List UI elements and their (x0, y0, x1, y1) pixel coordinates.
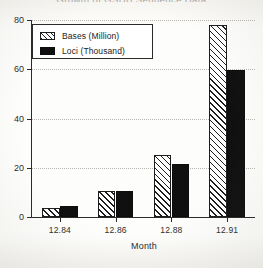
bar (60, 206, 78, 217)
chart-legend: Bases (Million) Loci (Thousand) (32, 24, 153, 59)
bar (154, 155, 172, 217)
y-axis-label: 80 (14, 15, 24, 25)
y-axis-tick (27, 20, 32, 21)
x-axis-label: 12.86 (104, 225, 126, 235)
chart-title: Growth of GSDB Sequence Data (0, 0, 263, 2)
x-axis-title: Month (32, 241, 256, 251)
legend-label-bases: Bases (Million) (62, 31, 119, 41)
legend-swatch-solid (40, 47, 55, 55)
y-axis-tick (27, 119, 32, 120)
legend-item-bases: Bases (Million) (40, 29, 152, 42)
bar (227, 70, 245, 217)
y-axis-label: 0 (19, 212, 24, 222)
bar (98, 191, 116, 217)
y-axis-tick (27, 168, 32, 169)
x-axis-tick (227, 217, 228, 222)
x-axis-tick (60, 217, 61, 222)
legend-label-loci: Loci (Thousand) (62, 46, 125, 56)
bar (209, 25, 227, 217)
gridline (32, 20, 255, 21)
legend-item-loci: Loci (Thousand) (40, 44, 152, 57)
y-axis-label: 60 (14, 64, 24, 74)
y-axis-label: 20 (14, 163, 24, 173)
x-axis-label: 12.88 (160, 225, 182, 235)
legend-swatch-hatched (40, 32, 55, 40)
bar (172, 164, 190, 217)
y-axis-label: 40 (14, 114, 24, 124)
y-axis-tick (27, 217, 32, 218)
bar (116, 191, 134, 217)
x-axis-label: 12.84 (49, 225, 71, 235)
bar-chart: Growth of GSDB Sequence Data 020406080 1… (0, 0, 263, 268)
x-axis-tick (116, 217, 117, 222)
x-axis-tick (171, 217, 172, 222)
x-axis-label: 12.91 (216, 225, 238, 235)
bar (42, 208, 60, 217)
y-axis-tick (27, 69, 32, 70)
